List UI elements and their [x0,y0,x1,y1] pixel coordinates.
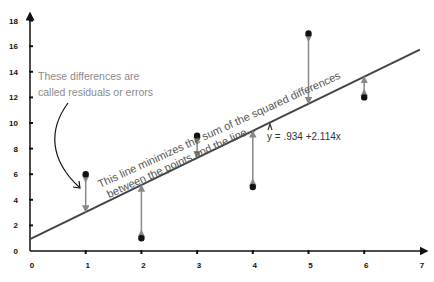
y-tick-label: 14 [9,68,18,77]
x-tick-label: 4 [253,261,258,270]
x-tick-label: 3 [197,261,202,270]
y-tick-label: 12 [9,93,18,102]
y-tick-label: 16 [9,42,18,51]
y-tick-label: 8 [14,145,19,154]
curved-pointer-arrow [55,103,79,187]
y-tick-label: 4 [14,196,19,205]
x-tick-label: 2 [141,261,146,270]
x-tick-label: 0 [30,261,35,270]
data-point [83,171,89,177]
x-tick-label: 5 [308,261,313,270]
data-point [361,94,367,100]
residual-note-line1: These differences are [38,70,140,82]
line-note-line2: between the points and the line... [105,122,257,200]
y-tick-label: 0 [14,247,19,256]
x-ticks: 01234567 [30,250,425,270]
regression-equation: y = .934 +2.114x [267,131,341,142]
residual-note-line2: called residuals or errors [38,86,153,98]
y-tick-label: 6 [14,170,19,179]
data-point [250,184,256,190]
y-tick-label: 2 [14,221,19,230]
y-tick-label: 18 [9,17,18,26]
data-point [305,30,311,36]
x-tick-label: 1 [85,261,90,270]
x-tick-label: 7 [420,261,425,270]
chart: 024681012141618 01234567 These differenc… [0,0,434,282]
y-tick-label: 10 [9,119,18,128]
data-point [138,235,144,241]
equation-pointer-icon [268,124,272,130]
x-tick-label: 6 [364,261,369,270]
